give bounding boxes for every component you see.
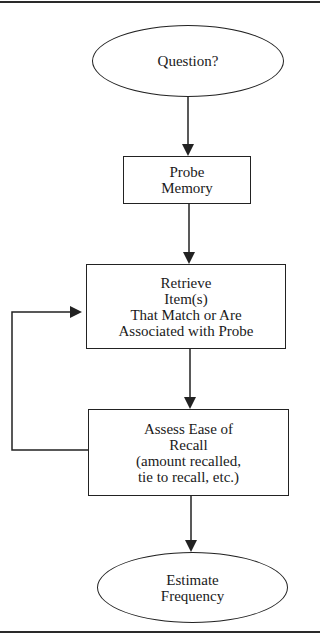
- node-retrieve-items: Retrieve Item(s) That Match or Are Assoc…: [86, 264, 286, 349]
- node-assess-ease: Assess Ease of Recall (amount recalled, …: [88, 409, 289, 496]
- node-retrieve-items-label: Retrieve Item(s) That Match or Are Assoc…: [119, 275, 254, 339]
- node-question-label: Question?: [158, 53, 219, 69]
- feedback-loop-arrow: [12, 306, 88, 450]
- arrow-retrieve-to-assess: [184, 349, 196, 409]
- node-estimate-frequency: Estimate Frequency: [97, 552, 288, 623]
- arrow-probe-to-retrieve: [183, 204, 195, 264]
- arrow-question-to-probe: [182, 97, 194, 156]
- node-question: Question?: [92, 25, 284, 97]
- node-assess-ease-label: Assess Ease of Recall (amount recalled, …: [136, 421, 241, 485]
- node-probe-memory: Probe Memory: [123, 156, 251, 204]
- arrow-assess-to-estimate: [185, 496, 197, 552]
- node-probe-memory-label: Probe Memory: [161, 164, 213, 196]
- node-estimate-frequency-label: Estimate Frequency: [161, 572, 224, 604]
